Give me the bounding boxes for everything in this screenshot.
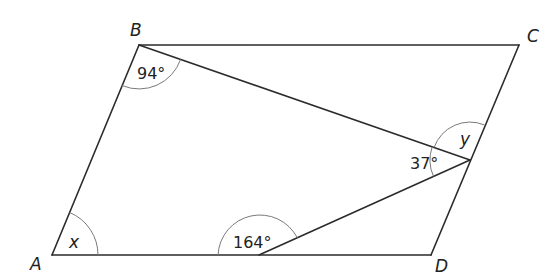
angle-label-E-lower: 37° xyxy=(410,154,438,173)
angle-label-B: 94° xyxy=(137,64,165,83)
geometry-diagram: B C A D 94° 37° y x 164° xyxy=(0,0,554,275)
angle-label-A: x xyxy=(68,232,80,252)
angle-label-F: 164° xyxy=(233,233,272,252)
segment-BE xyxy=(139,45,470,160)
vertex-label-D: D xyxy=(435,256,448,275)
vertex-label-B: B xyxy=(130,20,142,40)
edge-AB xyxy=(52,45,139,255)
vertex-label-A: A xyxy=(29,254,42,274)
vertex-label-C: C xyxy=(527,26,539,46)
angle-label-E-upper: y xyxy=(459,129,471,149)
segment-EF xyxy=(259,160,470,255)
edge-CD xyxy=(431,45,519,255)
